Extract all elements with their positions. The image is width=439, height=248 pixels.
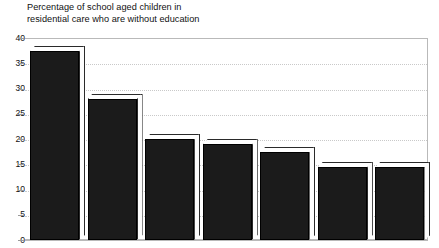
y-axis-tick-mark (18, 139, 24, 140)
bar-front-face (318, 167, 367, 240)
bar (30, 46, 84, 240)
bar-side-face (367, 162, 373, 240)
bar (145, 134, 199, 240)
bar (375, 162, 429, 240)
bar-front-face (145, 139, 194, 240)
bar-side-face (194, 134, 200, 240)
bar (318, 162, 372, 240)
chart-title: Percentage of school aged children in re… (27, 1, 307, 26)
y-axis-tick-mark (18, 63, 24, 64)
y-axis-tick-mark (18, 190, 24, 191)
bar (203, 139, 257, 240)
bar-side-face (137, 94, 143, 240)
gridline (25, 64, 427, 65)
bar-front-face (260, 152, 309, 240)
bar-side-face (424, 162, 430, 240)
y-axis: 4035302520151050 (0, 38, 25, 241)
bar-side-face (79, 46, 85, 240)
y-axis-tick-mark (18, 89, 24, 90)
bar-front-face (30, 51, 79, 240)
bar-front-face (203, 144, 252, 240)
bar-side-face (252, 139, 258, 240)
y-axis-tick-mark (18, 114, 24, 115)
bar-front-face (375, 167, 424, 240)
bar-chart-figure: Percentage of school aged children in re… (0, 0, 439, 248)
gridline (25, 90, 427, 91)
gridline (25, 115, 427, 116)
y-axis-tick-mark (18, 38, 24, 39)
y-axis-tick-mark (18, 164, 24, 165)
y-axis-tick-mark (18, 240, 24, 241)
x-axis-baseline (25, 240, 428, 241)
bar-front-face (88, 99, 137, 240)
bar (260, 147, 314, 240)
bar-side-face (309, 147, 315, 240)
y-axis-tick-mark (18, 215, 24, 216)
bar (88, 94, 142, 240)
